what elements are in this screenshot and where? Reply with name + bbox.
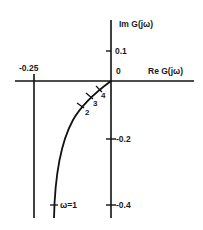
origin-label: 0	[116, 66, 121, 76]
tick-label-neg0.2: -0.2	[116, 134, 131, 144]
tick-label-0.1: 0.1	[115, 46, 127, 56]
nyquist-diagram: Im G(jω) Re G(jω) 0 0.1 -0.2 -0.4 -0.25 …	[0, 0, 203, 230]
imag-axis-label: Im G(jω)	[119, 19, 153, 29]
real-axis-label: Re G(jω)	[148, 66, 183, 76]
omega-label-2: 2	[85, 108, 90, 117]
omega-label-1: ω=1	[60, 200, 77, 210]
tick-label-neg0.25: -0.25	[19, 63, 39, 73]
omega-label-3: 3	[93, 99, 98, 108]
tick-label-neg0.4: -0.4	[116, 200, 131, 210]
nyquist-curve	[54, 81, 111, 218]
omega-label-4: 4	[101, 91, 106, 100]
